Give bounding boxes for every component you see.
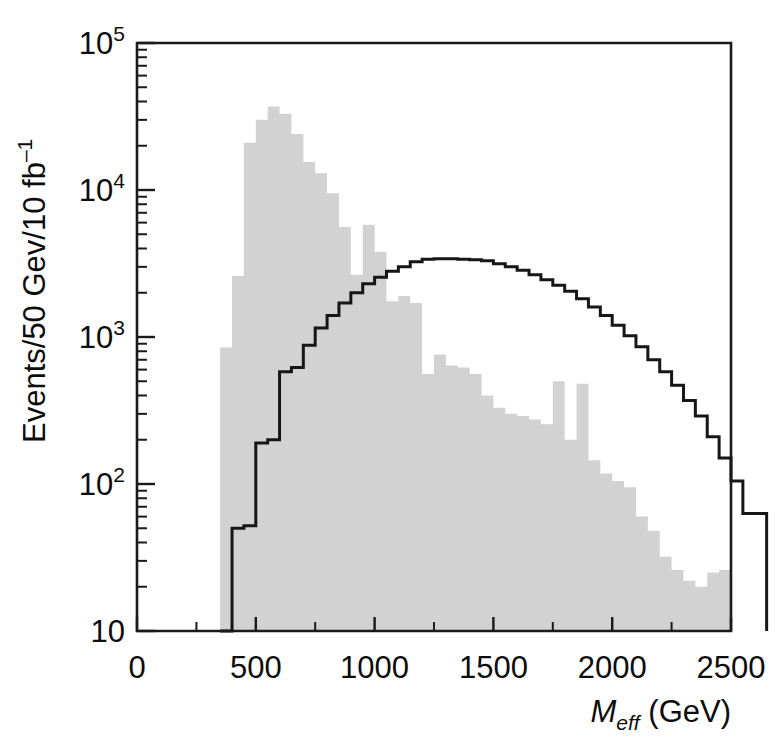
x-tick-label: 500 bbox=[230, 650, 282, 685]
x-tick-label: 0 bbox=[128, 650, 145, 685]
x-tick-label: 1000 bbox=[340, 650, 409, 685]
y-axis-title: Events/50 Gev/10 fb–1 bbox=[13, 139, 52, 443]
x-tick-label: 2000 bbox=[578, 650, 647, 685]
x-axis-title: Meff (GeV) bbox=[591, 694, 731, 734]
x-axis-title-text: Meff (GeV) bbox=[591, 694, 731, 734]
y-tick-label: 10 bbox=[91, 614, 125, 649]
x-tick-label: 1500 bbox=[459, 650, 528, 685]
chart-canvas: 05001000150020002500 10102103104105 Meff… bbox=[0, 0, 783, 751]
y-axis-title-text: Events/50 Gev/10 fb–1 bbox=[13, 139, 52, 443]
x-tick-label: 2500 bbox=[697, 650, 766, 685]
figure-root: 05001000150020002500 10102103104105 Meff… bbox=[0, 0, 783, 751]
